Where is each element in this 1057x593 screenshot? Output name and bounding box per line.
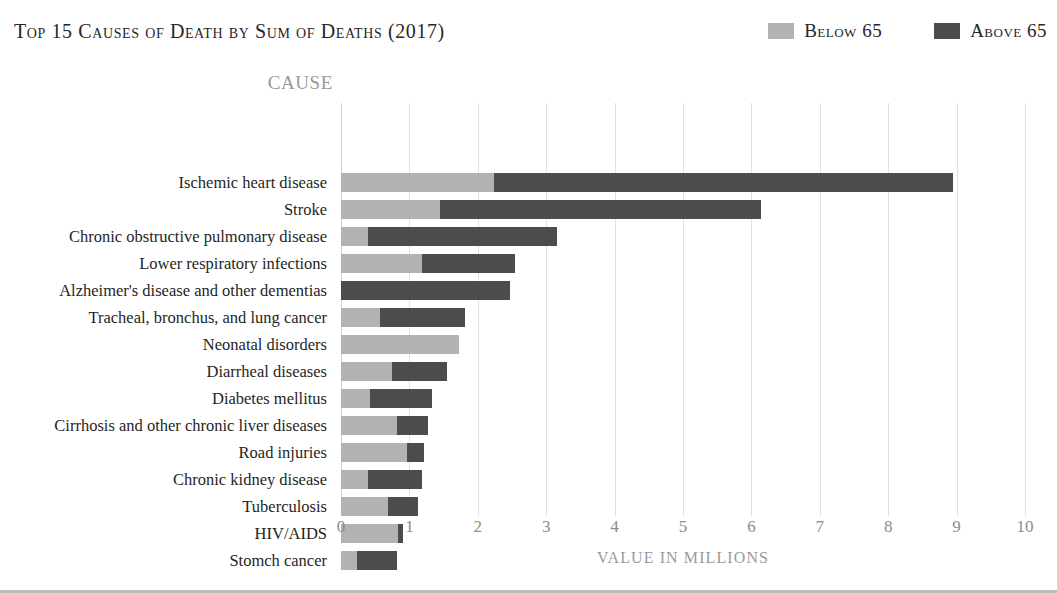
category-label: Stroke [0, 196, 334, 223]
chart-row: Cirrhosis and other chronic liver diseas… [0, 412, 1057, 439]
category-label: Stomch cancer [0, 547, 334, 574]
chart-row: Alzheimer's disease and other dementias [0, 277, 1057, 304]
page-title: Top 15 Causes of Death by Sum of Deaths … [14, 20, 445, 43]
x-tick-label: 10 [1017, 517, 1034, 537]
x-tick-label: 5 [679, 517, 688, 537]
legend-swatch-above-65-icon [934, 23, 960, 39]
bar-segment-above-65[interactable] [368, 470, 421, 489]
bar-segment-above-65[interactable] [494, 173, 953, 192]
category-label: HIV/AIDS [0, 520, 334, 547]
stacked-bar[interactable] [341, 227, 557, 246]
chart-row: Stroke [0, 196, 1057, 223]
category-label: Lower respiratory infections [0, 250, 334, 277]
bar-segment-above-65[interactable] [368, 227, 557, 246]
stacked-bar[interactable] [341, 443, 424, 462]
x-tick-label: 3 [542, 517, 551, 537]
category-label: Alzheimer's disease and other dementias [0, 277, 334, 304]
x-tick-label: 9 [952, 517, 961, 537]
chart-row: Neonatal disorders [0, 331, 1057, 358]
category-label: Tracheal, bronchus, and lung cancer [0, 304, 334, 331]
bar-segment-above-65[interactable] [370, 389, 432, 408]
bar-segment-below-65[interactable] [341, 227, 368, 246]
chart-plot-area: CAUSE Ischemic heart diseaseStrokeChroni… [0, 62, 1057, 593]
x-axis-title: VALUE IN MILLIONS [341, 549, 1025, 567]
category-label: Chronic kidney disease [0, 466, 334, 493]
x-tick-label: 2 [474, 517, 483, 537]
stacked-bar[interactable] [341, 362, 447, 381]
category-label: Ischemic heart disease [0, 169, 334, 196]
bar-segment-below-65[interactable] [341, 416, 397, 435]
stacked-bar[interactable] [341, 497, 418, 516]
chart-row: Chronic kidney disease [0, 466, 1057, 493]
bar-segment-below-65[interactable] [341, 173, 494, 192]
bar-segment-above-65[interactable] [380, 308, 465, 327]
chart-row: Diabetes mellitus [0, 385, 1057, 412]
chart-row: Tuberculosis [0, 493, 1057, 520]
chart-row: Ischemic heart disease [0, 169, 1057, 196]
category-label: Chronic obstructive pulmonary disease [0, 223, 334, 250]
stacked-bar[interactable] [341, 254, 515, 273]
legend-label-below-65: Below 65 [804, 20, 882, 42]
x-tick-label: 7 [816, 517, 825, 537]
category-label: Neonatal disorders [0, 331, 334, 358]
stacked-bar[interactable] [341, 389, 432, 408]
chart-bar-rows: Ischemic heart diseaseStrokeChronic obst… [0, 124, 1057, 544]
stacked-bar[interactable] [341, 173, 953, 192]
x-axis-ticks: 012345678910 [341, 517, 1025, 543]
chart-header: Top 15 Causes of Death by Sum of Deaths … [0, 0, 1057, 62]
stacked-bar[interactable] [341, 281, 510, 300]
category-label: Diabetes mellitus [0, 385, 334, 412]
chart-row: Chronic obstructive pulmonary disease [0, 223, 1057, 250]
chart-legend: Below 65 Above 65 [768, 20, 1047, 42]
bar-segment-below-65[interactable] [341, 362, 392, 381]
bar-segment-below-65[interactable] [341, 308, 380, 327]
bar-segment-above-65[interactable] [440, 200, 761, 219]
bar-segment-above-65[interactable] [407, 443, 424, 462]
x-tick-label: 6 [747, 517, 756, 537]
chart-row: Lower respiratory infections [0, 250, 1057, 277]
bar-segment-above-65[interactable] [422, 254, 514, 273]
legend-label-above-65: Above 65 [970, 20, 1047, 42]
bar-segment-below-65[interactable] [341, 200, 440, 219]
bar-segment-below-65[interactable] [341, 497, 388, 516]
legend-item-below-65[interactable]: Below 65 [768, 20, 882, 42]
bar-segment-below-65[interactable] [341, 335, 459, 354]
stacked-bar[interactable] [341, 470, 422, 489]
category-label: Road injuries [0, 439, 334, 466]
y-axis-header: CAUSE [0, 72, 341, 94]
x-tick-label: 1 [405, 517, 414, 537]
x-tick-label: 0 [337, 517, 346, 537]
bar-segment-below-65[interactable] [341, 470, 368, 489]
bar-segment-above-65[interactable] [392, 362, 447, 381]
stacked-bar[interactable] [341, 200, 761, 219]
bar-segment-below-65[interactable] [341, 389, 370, 408]
legend-swatch-below-65-icon [768, 23, 794, 39]
bar-segment-above-65[interactable] [388, 497, 418, 516]
bar-segment-above-65[interactable] [341, 281, 510, 300]
bar-segment-above-65[interactable] [397, 416, 428, 435]
legend-item-above-65[interactable]: Above 65 [934, 20, 1047, 42]
stacked-bar[interactable] [341, 335, 459, 354]
category-label: Tuberculosis [0, 493, 334, 520]
x-tick-label: 8 [884, 517, 893, 537]
stacked-bar[interactable] [341, 416, 428, 435]
chart-row: Tracheal, bronchus, and lung cancer [0, 304, 1057, 331]
bar-segment-below-65[interactable] [341, 443, 407, 462]
category-label: Cirrhosis and other chronic liver diseas… [0, 412, 334, 439]
chart-row: Diarrheal diseases [0, 358, 1057, 385]
x-tick-label: 4 [610, 517, 619, 537]
chart-row: Road injuries [0, 439, 1057, 466]
bar-segment-below-65[interactable] [341, 254, 422, 273]
stacked-bar[interactable] [341, 308, 465, 327]
category-label: Diarrheal diseases [0, 358, 334, 385]
